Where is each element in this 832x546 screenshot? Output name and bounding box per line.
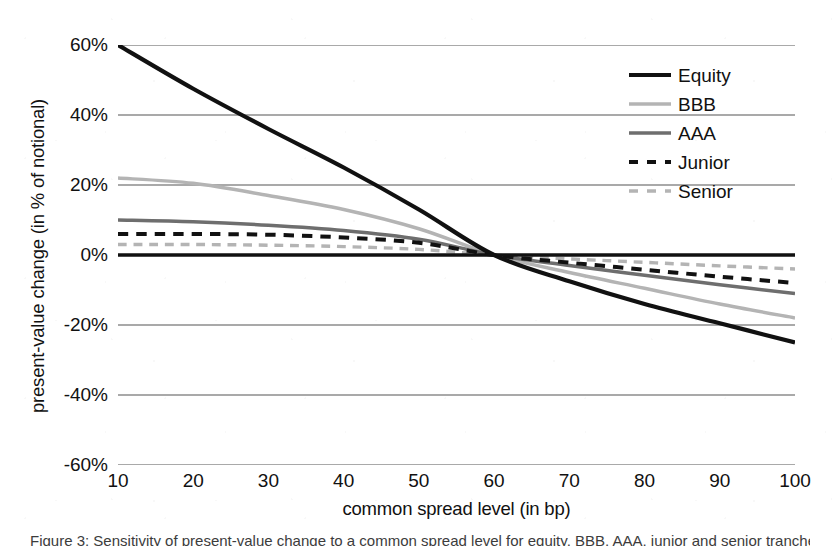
y-tick-label: -40% xyxy=(44,385,108,404)
legend-item-equity[interactable]: Equity xyxy=(629,62,731,88)
legend-swatch-bbb-icon xyxy=(629,97,671,111)
y-tick-label: -20% xyxy=(44,315,108,334)
chart-legend: EquityBBBAAAJuniorSenior xyxy=(629,62,797,210)
legend-swatch-equity-icon xyxy=(629,68,671,82)
legend-item-bbb[interactable]: BBB xyxy=(629,91,716,117)
x-tick-label: 40 xyxy=(333,470,354,492)
x-tick-label: 60 xyxy=(484,470,505,492)
y-axis-tick-labels: 60%40%20%0%-20%-40%-60% xyxy=(44,0,108,546)
x-tick-label: 90 xyxy=(709,470,730,492)
legend-label: AAA xyxy=(678,124,716,143)
x-tick-label: 100 xyxy=(779,470,811,492)
legend-swatch-aaa-icon xyxy=(629,126,671,140)
x-tick-label: 30 xyxy=(258,470,279,492)
legend-swatch-junior-icon xyxy=(629,155,671,169)
x-tick-label: 20 xyxy=(183,470,204,492)
x-axis-tick-labels: 102030405060708090100 xyxy=(118,470,795,496)
legend-label: BBB xyxy=(678,95,716,114)
y-tick-label: 20% xyxy=(44,175,108,194)
x-axis-title: common spread level (in bp) xyxy=(118,498,795,520)
chart-figure: present-value change (in % of notional) … xyxy=(0,0,832,546)
y-tick-label: 40% xyxy=(44,105,108,124)
legend-item-junior[interactable]: Junior xyxy=(629,149,730,175)
legend-label: Equity xyxy=(678,66,731,85)
y-tick-label: -60% xyxy=(44,455,108,474)
figure-caption: Figure 3: Sensitivity of present-value c… xyxy=(30,532,810,546)
legend-swatch-senior-icon xyxy=(629,184,671,198)
x-tick-label: 80 xyxy=(634,470,655,492)
legend-item-senior[interactable]: Senior xyxy=(629,178,733,204)
y-tick-label: 0% xyxy=(44,245,108,264)
y-tick-label: 60% xyxy=(44,35,108,54)
legend-item-aaa[interactable]: AAA xyxy=(629,120,716,146)
legend-label: Senior xyxy=(678,182,733,201)
x-tick-label: 10 xyxy=(107,470,128,492)
x-tick-label: 50 xyxy=(408,470,429,492)
x-tick-label: 70 xyxy=(559,470,580,492)
legend-label: Junior xyxy=(678,153,730,172)
